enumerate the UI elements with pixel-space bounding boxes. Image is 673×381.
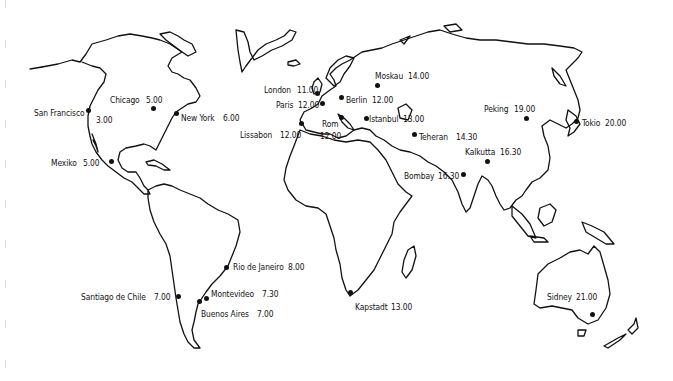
city-dot-kapstadt [348, 290, 353, 295]
city-dot-new-york [174, 111, 179, 116]
city-dot-peking [524, 116, 529, 121]
coastline-greenland [236, 30, 296, 72]
city-time-buenos-aires: 7.00 [257, 308, 273, 319]
city-name-peking: Peking [484, 103, 508, 114]
city-name-london: London [264, 84, 291, 95]
coastline-tasmania [578, 330, 586, 336]
coastline-new-zealand [604, 318, 638, 348]
city-name-rio-de-janeiro: Rio de Janeiro [233, 261, 284, 272]
coastline-cuba [146, 160, 170, 170]
city-time-berlin: 12.00 [372, 94, 393, 105]
city-time-new-york: 6.00 [223, 112, 239, 123]
city-time-bombay: 16.30 [438, 170, 459, 181]
city-dot-rom [339, 115, 344, 120]
city-time-montevideo: 7.30 [262, 288, 278, 299]
city-time-lissabon: 12.00 [280, 129, 301, 140]
city-name-san-francisco: San Francisco [34, 107, 84, 118]
city-name-buenos-aires: Buenos Aires [201, 308, 249, 319]
city-name-chicago: Chicago [110, 94, 140, 105]
city-time-tokio: 20.00 [605, 117, 626, 128]
city-time-san-francisco: 3.00 [96, 114, 112, 125]
city-dot-kalkutta [485, 159, 490, 164]
city-name-istanbul: Istanbul [369, 113, 398, 124]
city-name-kalkutta: Kalkutta [465, 146, 495, 157]
city-name-new-york: New York [181, 112, 215, 123]
coastline-kamchatka [552, 68, 566, 86]
city-time-santiago-de-chile: 7.00 [154, 291, 170, 302]
city-name-kapstadt: Kapstadt [355, 301, 388, 312]
coastline-arctic-islands [160, 32, 196, 56]
coastline-borneo [538, 204, 556, 226]
city-time-istanbul: 13.00 [403, 113, 424, 124]
city-dot-tokio [574, 119, 579, 124]
city-time-kapstadt: 13.00 [391, 301, 412, 312]
coastline-madagascar [402, 246, 416, 278]
city-name-montevideo: Montevideo [211, 288, 254, 299]
city-time-paris: 12.00 [298, 99, 319, 110]
city-dot-chicago [151, 106, 156, 111]
city-name-tokio: Tokio [582, 117, 600, 128]
city-name-lissabon: Lissabon [240, 129, 272, 140]
city-time-chicago: 5.00 [146, 94, 162, 105]
city-time-london: 11.00 [297, 84, 318, 95]
city-name-teheran: Teheran [419, 131, 448, 142]
coastline-australia [534, 246, 610, 324]
city-time-moskau: 14.00 [408, 70, 429, 81]
city-name-bombay: Bombay [404, 170, 434, 181]
city-time-rio-de-janeiro: 8.00 [288, 261, 304, 272]
city-dot-mexiko [109, 159, 114, 164]
city-name-sidney: Sidney [547, 291, 572, 302]
city-name-berlin: Berlin [346, 94, 367, 105]
city-time-mexiko: 5.00 [83, 157, 99, 168]
city-dot-san-francisco [86, 108, 91, 113]
city-dot-montevideo [204, 296, 209, 301]
coastline-alaska-chain [30, 67, 42, 69]
city-dot-istanbul [364, 116, 369, 121]
city-dot-paris [320, 101, 325, 106]
city-dot-teheran [412, 132, 417, 137]
city-time-rom: 12.00 [320, 130, 341, 141]
city-dot-rio-de-janeiro [224, 265, 229, 270]
city-dot-moskau [375, 83, 380, 88]
city-time-sidney: 21.00 [576, 291, 597, 302]
city-time-peking: 19.00 [514, 103, 535, 114]
city-dot-berlin [339, 95, 344, 100]
city-name-rom: Rom [322, 118, 339, 129]
city-dot-lissabon [299, 121, 304, 126]
city-name-moskau: Moskau [375, 70, 403, 81]
city-time-teheran: 14.30 [456, 131, 477, 142]
coastline-new-guinea [582, 222, 614, 244]
city-name-paris: Paris [276, 99, 293, 110]
coastline-iceland [288, 60, 300, 66]
city-dot-sidney [590, 312, 595, 317]
city-name-mexiko: Mexiko [51, 157, 77, 168]
city-time-kalkutta: 16.30 [500, 146, 521, 157]
city-dot-buenos-aires [197, 299, 202, 304]
city-name-santiago-de-chile: Santiago de Chile [81, 291, 146, 302]
world-map-outline [0, 0, 673, 381]
city-dot-bombay [461, 172, 466, 177]
city-dot-santiago-de-chile [176, 294, 181, 299]
